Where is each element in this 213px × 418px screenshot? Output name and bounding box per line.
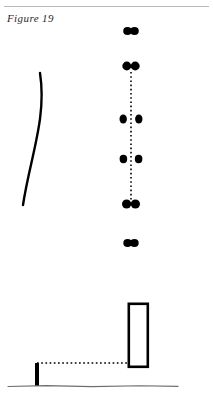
tall-open-rectangle [129, 304, 148, 367]
figure-page: Figure 19 [0, 0, 213, 418]
post-marker [35, 363, 39, 386]
lower-scene-group [8, 304, 178, 387]
mark-column-group [120, 27, 143, 247]
figure-illustration [0, 0, 213, 418]
track-mark-6 [123, 239, 138, 247]
track-mark-2 [122, 62, 139, 71]
track-mark-5 [122, 200, 140, 209]
curved-stroke [23, 73, 42, 205]
track-mark-1 [123, 27, 139, 35]
ground-line [8, 386, 178, 387]
